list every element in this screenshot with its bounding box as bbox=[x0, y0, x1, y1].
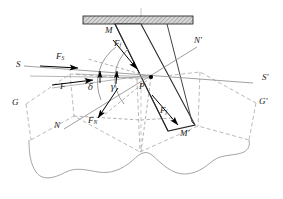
force-label-FS-sub: S bbox=[62, 55, 65, 61]
axis-label-n-left: N bbox=[54, 121, 60, 130]
force-label-FN-sub: N bbox=[94, 119, 98, 125]
axis-label-g-right: G' bbox=[259, 97, 267, 106]
force-label-FS: FS bbox=[56, 52, 64, 62]
force-vector-FN bbox=[98, 88, 118, 118]
angle-label-gamma: γ bbox=[110, 83, 115, 92]
force-label-Ff-lower-sub: f bbox=[166, 109, 168, 115]
mounting-plate bbox=[83, 16, 193, 24]
force-label-F-base: F bbox=[60, 81, 66, 91]
point-label-p: P bbox=[139, 82, 145, 91]
blade-label-m-top: M bbox=[105, 26, 113, 35]
force-label-FN: FN bbox=[88, 116, 97, 126]
axis-label-s-left: S bbox=[16, 60, 21, 69]
force-label-Ff-upper: Ff bbox=[114, 39, 121, 49]
axis-label-g-left: G bbox=[12, 98, 19, 107]
diagram-svg bbox=[0, 0, 283, 199]
axis-label-s-right: S' bbox=[262, 73, 268, 82]
blade-label-m-bottom: M' bbox=[180, 129, 189, 138]
diagram-canvas: S S' N N' G G' M M' P δ γ FS F FN Ff Ff bbox=[0, 0, 283, 199]
force-label-Ff-lower: Ff bbox=[160, 106, 167, 116]
axis-label-n-right: N' bbox=[194, 36, 202, 45]
force-vector-F bbox=[52, 80, 93, 85]
force-label-F: F bbox=[60, 82, 66, 91]
point-P-marker bbox=[149, 75, 153, 79]
ground-surface-curve bbox=[29, 140, 249, 178]
angle-label-delta: δ bbox=[88, 83, 93, 92]
force-label-Ff-upper-sub: f bbox=[120, 42, 122, 48]
